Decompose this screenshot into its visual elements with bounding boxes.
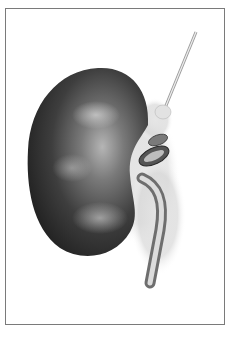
kidney	[28, 68, 148, 256]
vessel-strand	[155, 32, 196, 119]
kidney-illustration	[0, 0, 230, 339]
